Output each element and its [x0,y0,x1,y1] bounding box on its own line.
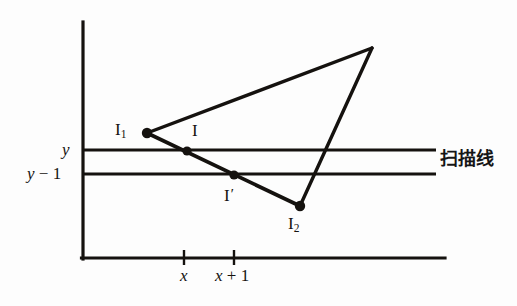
point-label-i-prime: I′ [224,187,233,204]
tick-label-x-plus-1: x + 1 [215,267,249,284]
point-label-i-prime-mark: ′ [230,186,233,202]
tick-label-x-plus-1-number: 1 [241,266,250,285]
axis-label-y-minus-1: y − 1 [27,165,61,182]
axis-label-y-minus-1-operator: − [35,164,53,183]
vertex-label-i1-subscript: 1 [121,128,127,140]
figure-canvas: y y − 1 I1 I I′ I2 扫描线 x x + 1 [0,0,517,306]
tick-label-x-plus-1-var: x [215,266,223,285]
scanline-annotation: 扫描线 [440,150,494,168]
point-label-i-text: I [192,121,198,140]
scanline-annotation-text: 扫描线 [440,148,494,169]
tick-label-x: x [180,267,188,284]
tick-label-x-plus-1-operator: + [223,266,241,285]
axis-label-y-minus-1-number: 1 [53,164,62,183]
axis-label-y: y [62,141,70,158]
vertex-label-i2: I2 [288,215,299,235]
vertex-label-i2-subscript: 2 [294,222,300,234]
point-label-i: I [192,122,198,139]
point-marker-i1 [142,128,152,138]
point-marker-i [182,146,191,155]
axis-label-y-minus-1-var: y [27,164,35,183]
point-marker-i2 [295,201,305,211]
axis-label-y-text: y [62,140,70,159]
point-marker-i-prime [229,170,238,179]
tick-label-x-text: x [180,266,188,285]
vertex-label-i1: I1 [115,121,126,141]
